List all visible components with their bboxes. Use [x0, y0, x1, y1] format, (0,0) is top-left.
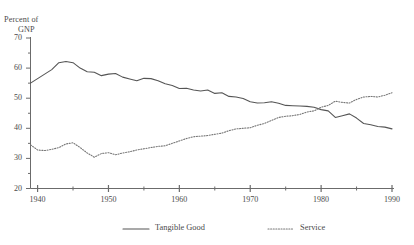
legend-label-tangible-good: Tangible Good [155, 223, 205, 232]
y-tick-label-70: 70 [6, 33, 22, 42]
chart-figure: Percent of GNP 706050403020 194019501960… [0, 0, 414, 245]
x-tick-label-1980: 1980 [306, 195, 336, 204]
x-tick-label-1940: 1940 [23, 195, 53, 204]
series-line-service [31, 93, 393, 157]
y-ticks [26, 38, 31, 189]
data-series [31, 61, 393, 157]
y-tick-label-40: 40 [6, 123, 22, 132]
y-tick-label-60: 60 [6, 63, 22, 72]
y-tick-label-50: 50 [6, 93, 22, 102]
x-tick-label-1970: 1970 [235, 195, 265, 204]
plot-area [0, 0, 414, 245]
x-tick-label-1990: 1990 [377, 195, 407, 204]
x-tick-label-1950: 1950 [93, 195, 123, 204]
axes [31, 37, 395, 189]
series-line-tangible-good [31, 61, 393, 128]
y-tick-label-30: 30 [6, 153, 22, 162]
x-tick-label-1960: 1960 [164, 195, 194, 204]
y-tick-label-20: 20 [6, 184, 22, 193]
legend-label-service: Service [300, 223, 325, 232]
